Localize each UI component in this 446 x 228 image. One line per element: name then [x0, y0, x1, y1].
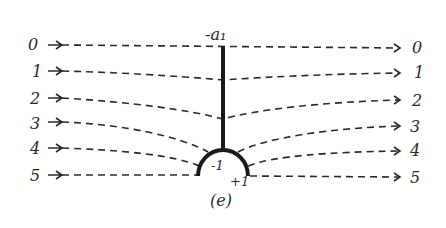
left-label-1: 1 — [32, 62, 42, 81]
left-label-0: 0 — [28, 35, 38, 54]
left-label-4: 4 — [29, 139, 40, 158]
left-arrow-icons — [48, 41, 62, 179]
right-label-4: 4 — [409, 141, 420, 160]
left-label-3: 3 — [30, 114, 40, 133]
right-arrow-icons — [394, 44, 400, 181]
streamline-1 — [62, 71, 400, 80]
arc-right-label: +1 — [230, 174, 249, 189]
right-label-3: 3 — [410, 117, 420, 136]
flow-diagram: 0 1 2 3 4 5 0 1 2 3 4 5 -a₁ - — [0, 0, 446, 228]
top-label: -a₁ — [205, 25, 226, 44]
right-label-1: 1 — [414, 63, 424, 82]
left-label-2: 2 — [29, 89, 40, 108]
streamline-0 — [62, 45, 400, 48]
streamline-2 — [62, 98, 400, 119]
right-label-0: 0 — [412, 38, 422, 57]
right-label-5: 5 — [410, 168, 420, 187]
obstacle — [198, 46, 248, 176]
arc-left-label: -1 — [211, 158, 224, 173]
streamlines — [62, 45, 400, 177]
streamline-3 — [62, 122, 400, 152]
right-label-2: 2 — [411, 91, 422, 110]
figure-caption: (e) — [210, 191, 232, 210]
left-label-5: 5 — [30, 166, 40, 185]
